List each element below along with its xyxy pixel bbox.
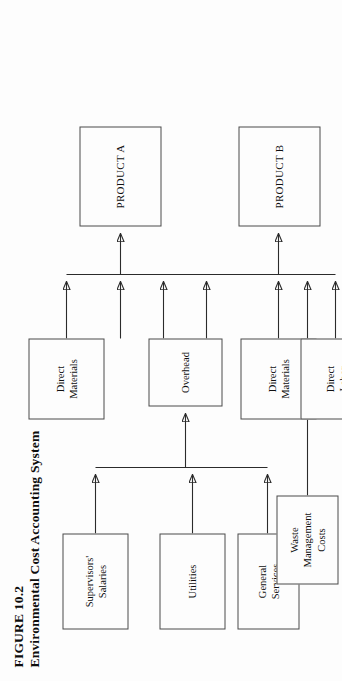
box-direct-materials-product-a[interactable]: Direct Materials bbox=[28, 338, 104, 419]
box-label-line1: Direct bbox=[54, 365, 65, 391]
box-label: Direct Materials bbox=[53, 359, 79, 399]
box-overhead[interactable]: Overhead bbox=[148, 338, 222, 406]
box-utilities[interactable]: Utilities bbox=[159, 533, 225, 629]
box-label: Supervisors' Salaries bbox=[82, 555, 108, 606]
box-product-b[interactable]: PRODUCT B bbox=[238, 126, 320, 226]
box-label: Utilities bbox=[185, 564, 198, 598]
box-label-line2: Labor bbox=[337, 366, 342, 391]
box-label: Direct Materials bbox=[265, 359, 291, 399]
box-product-a[interactable]: PRODUCT A bbox=[79, 126, 161, 226]
box-label: Overhead bbox=[178, 352, 191, 393]
box-label-line1: Supervisors' bbox=[83, 555, 94, 606]
box-label-line2: Management bbox=[301, 512, 312, 567]
box-direct-labor-product-b[interactable]: Direct Labor bbox=[300, 338, 342, 419]
box-label-line2: Salaries bbox=[96, 564, 107, 597]
box-label: PRODUCT B bbox=[272, 144, 286, 208]
box-waste-management-costs[interactable]: Waste Management Costs bbox=[276, 495, 338, 584]
box-supervisors-salaries[interactable]: Supervisors' Salaries bbox=[62, 533, 128, 629]
box-label-line1: Waste bbox=[288, 527, 299, 552]
box-label: Direct Labor bbox=[323, 365, 342, 391]
box-label: PRODUCT A bbox=[113, 144, 127, 208]
box-label-line2: Materials bbox=[67, 359, 78, 399]
box-label-line2: Materials bbox=[279, 359, 290, 399]
box-label-line1: Direct bbox=[324, 365, 335, 391]
box-label-line3: Costs bbox=[315, 528, 326, 551]
box-label-line1: Direct bbox=[266, 365, 277, 391]
figure-page: FIGURE 10.2 Environmental Cost Accountin… bbox=[0, 0, 342, 681]
figure-stage: FIGURE 10.2 Environmental Cost Accountin… bbox=[0, 0, 342, 681]
box-label-line1: General bbox=[256, 564, 267, 597]
box-label: Waste Management Costs bbox=[287, 512, 326, 567]
